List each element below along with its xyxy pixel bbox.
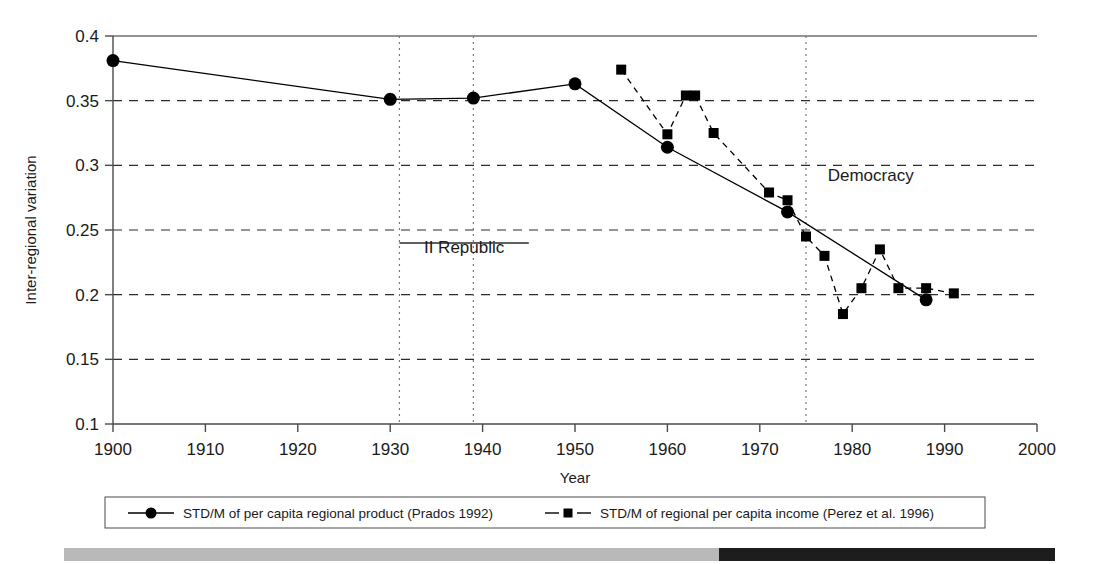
x-axis-title: Year [560,469,590,486]
chart-canvas: 0.10.150.20.250.30.350.4 190019101920193… [0,0,1094,564]
data-point-square [616,65,626,75]
data-point-square [783,195,793,205]
y-tick-label: 0.25 [66,221,99,240]
series-line-1 [621,70,954,314]
data-point-square [875,244,885,254]
legend-marker-circle [146,508,157,519]
annotation-label: Democracy [828,166,914,185]
data-point-square [921,283,931,293]
data-point-square [838,309,848,319]
data-point-circle [107,54,120,67]
y-tick-label: 0.15 [66,350,99,369]
x-tick-label: 1980 [833,440,871,459]
series-paths [113,61,954,314]
x-axis-ticks: 1900191019201930194019501960197019801990… [94,424,1056,459]
series-line-0 [113,61,926,300]
data-point-square [949,288,959,298]
annotation-label: II Republic [424,238,505,257]
data-point-square [690,90,700,100]
data-point-square [681,90,691,100]
legend-content: STD/M of per capita regional product (Pr… [128,506,934,521]
footer-bar-left [64,548,719,561]
series-markers [107,54,959,319]
data-point-circle [467,92,480,105]
x-tick-label: 1960 [648,440,686,459]
x-tick-label: 1970 [741,440,779,459]
data-point-circle [920,293,933,306]
y-tick-label: 0.4 [75,27,99,46]
y-tick-label: 0.3 [75,156,99,175]
data-point-circle [661,141,674,154]
legend-marker-square [564,509,573,518]
data-point-circle [781,205,794,218]
x-tick-label: 1950 [556,440,594,459]
data-point-square [893,283,903,293]
footer-bar-right [719,548,1055,561]
y-axis-ticks: 0.10.150.20.250.30.350.4 [66,27,113,434]
x-tick-label: 1940 [464,440,502,459]
data-point-square [662,129,672,139]
data-point-square [709,128,719,138]
x-tick-label: 1900 [94,440,132,459]
x-tick-label: 1930 [371,440,409,459]
figure-container: 0.10.150.20.250.30.350.4 190019101920193… [0,0,1094,564]
data-point-square [764,187,774,197]
y-tick-label: 0.1 [75,415,99,434]
y-axis-title: Inter-regional variation [22,155,39,304]
data-point-circle [384,93,397,106]
legend-label-0: STD/M of per capita regional product (Pr… [183,506,493,521]
legend: STD/M of per capita regional product (Pr… [105,497,985,528]
data-point-square [819,251,829,261]
x-tick-label: 1920 [279,440,317,459]
y-tick-label: 0.2 [75,286,99,305]
y-tick-label: 0.35 [66,92,99,111]
x-tick-label: 2000 [1018,440,1056,459]
legend-label-1: STD/M of regional per capita income (Per… [600,506,934,521]
x-tick-label: 1990 [926,440,964,459]
data-point-circle [569,77,582,90]
data-point-square [856,283,866,293]
x-tick-label: 1910 [186,440,224,459]
data-point-square [801,231,811,241]
